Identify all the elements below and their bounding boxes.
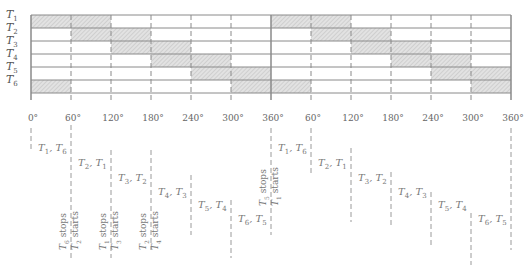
tick-label: 180° — [142, 113, 164, 123]
tick-label: 360° — [262, 113, 284, 123]
tick-label: 60° — [65, 113, 81, 123]
transition-label: T2 stops T4 starts — [138, 211, 162, 250]
transition-label: T5 stops T1 starts — [258, 167, 282, 206]
tick-label: 300° — [222, 113, 244, 123]
conduction-bar — [31, 80, 71, 93]
tick-label: 180° — [382, 113, 404, 123]
tick-label: 240° — [422, 113, 444, 123]
timing-diagram: T1 T2 T3 T4 T5 T6 0° 60° 120° 180° 240° … — [0, 0, 532, 271]
transition-label: T6 stops T2 starts — [58, 211, 82, 250]
row-label-t6: T6 — [6, 73, 18, 91]
conduction-bar — [471, 80, 511, 93]
pair-label: T6, T5 — [478, 213, 507, 227]
tick-label: 60° — [305, 113, 321, 123]
pair-label: T4, T3 — [398, 186, 427, 200]
transition-label: T1 stops T3 starts — [98, 211, 122, 250]
tick-label: 360° — [502, 113, 524, 123]
pair-label: T1, T6 — [278, 142, 307, 156]
pair-label: T2, T1 — [78, 157, 107, 171]
tick-label: 0° — [28, 113, 38, 123]
pair-label: T2, T1 — [318, 157, 347, 171]
pair-label: T4, T3 — [158, 186, 187, 200]
pair-label: T3, T2 — [358, 172, 387, 186]
tick-label: 120° — [342, 113, 364, 123]
pair-label: T5, T4 — [198, 199, 227, 213]
tick-label: 120° — [102, 113, 124, 123]
pair-label: T6, T5 — [238, 213, 267, 227]
pair-label: T5, T4 — [438, 199, 467, 213]
pair-label: T1, T6 — [38, 142, 67, 156]
pair-label: T3, T2 — [118, 172, 147, 186]
tick-label: 240° — [182, 113, 204, 123]
tick-label: 300° — [462, 113, 484, 123]
